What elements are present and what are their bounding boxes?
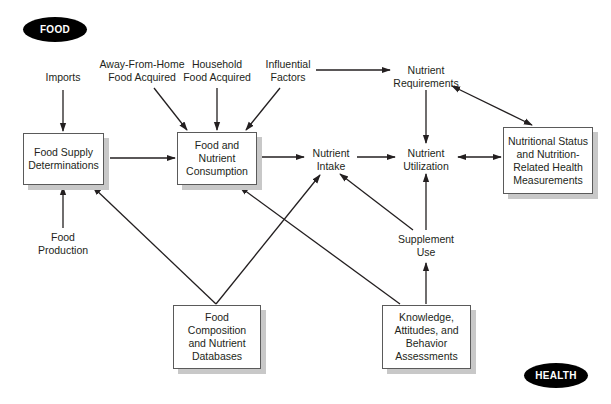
arrow-composition-to-intake	[216, 175, 320, 304]
box-nutritional-status: Nutritional Status and Nutrition- Relate…	[503, 127, 593, 194]
arrow-influential-to-consumption	[246, 88, 280, 130]
box-knowledge-attitudes-behavior: Knowledge, Attitudes, and Behavior Asses…	[382, 305, 471, 369]
health-badge: HEALTH	[524, 363, 588, 388]
arrow-supplement-to-intake	[340, 174, 413, 230]
food-badge: FOOD	[23, 17, 87, 42]
arrow-away-to-consumption	[154, 88, 187, 130]
arrow-composition-to-supply	[93, 187, 216, 304]
label-influential-factors: Influential Factors	[266, 58, 311, 84]
box-food-nutrient-consumption: Food and Nutrient Consumption	[177, 132, 257, 185]
arrow-knowledge-to-consumption	[240, 187, 400, 304]
label-nutrient-utilization: Nutrient Utilization	[403, 147, 449, 173]
label-away-from-home: Away-From-Home Food Acquired	[100, 58, 185, 84]
label-food-production: Food Production	[38, 231, 88, 257]
label-household: Household Food Acquired	[183, 58, 251, 84]
label-nutrient-requirements: Nutrient Requirements	[393, 64, 458, 90]
label-nutrient-intake: Nutrient Intake	[313, 147, 350, 173]
box-food-supply-determinations: Food Supply Determinations	[23, 133, 104, 185]
arrow-requirements-status	[452, 86, 532, 125]
box-food-composition-databases: Food Composition and Nutrient Databases	[173, 305, 261, 369]
label-supplement-use: Supplement Use	[398, 233, 454, 259]
label-imports: Imports	[45, 71, 80, 84]
